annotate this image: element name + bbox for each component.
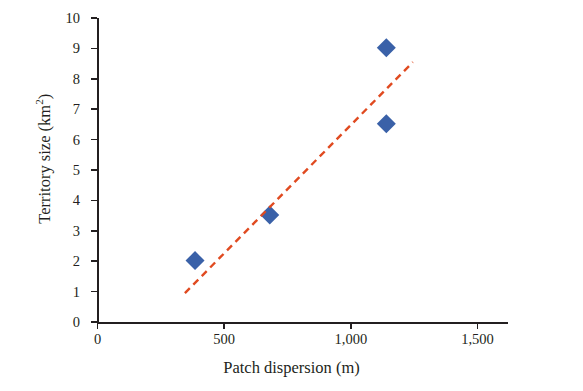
- data-point-marker: [377, 114, 396, 133]
- x-axis-title: Patch dispersion (m): [0, 358, 583, 378]
- y-axis-title-text: Territory size (km: [35, 105, 54, 224]
- data-point-marker: [377, 38, 396, 57]
- y-axis-title: Territory size (km2): [33, 0, 55, 319]
- y-axis-title-superscript: 2: [33, 99, 45, 105]
- trend-line: [185, 62, 413, 293]
- y-axis-title-tail: ): [35, 94, 54, 100]
- data-point-marker: [186, 251, 205, 270]
- plot-data-overlay: [0, 0, 583, 391]
- scatter-chart: 012345678910 05001,0001,500 Patch disper…: [0, 0, 583, 391]
